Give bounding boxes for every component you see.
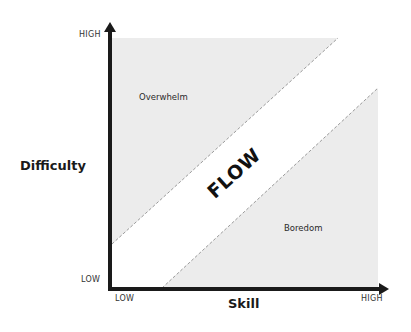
y-axis-title: Difficulty xyxy=(20,158,86,173)
x-axis-low-tick: LOW xyxy=(115,294,134,303)
y-axis-arrow-icon xyxy=(104,22,116,32)
overwhelm-label: Overwhelm xyxy=(139,92,188,102)
x-axis-title: Skill xyxy=(228,296,259,311)
x-axis-high-tick: HIGH xyxy=(361,294,383,303)
y-axis-high-tick: HIGH xyxy=(79,30,101,39)
boredom-label: Boredom xyxy=(284,223,322,233)
y-axis-low-tick: LOW xyxy=(81,275,100,284)
